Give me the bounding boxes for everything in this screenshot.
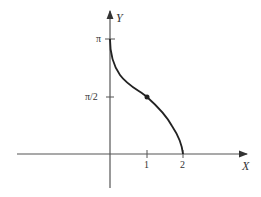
chart: Y X π π/2 1 2: [0, 0, 261, 197]
marked-point: [145, 95, 150, 100]
tick-label-pi: π: [96, 33, 101, 44]
x-axis-label: X: [241, 159, 250, 173]
tick-label-x2: 2: [180, 159, 185, 170]
tick-label-pi-half: π/2: [85, 91, 98, 102]
tick-label-x1: 1: [144, 159, 149, 170]
y-axis-label: Y: [116, 11, 124, 25]
